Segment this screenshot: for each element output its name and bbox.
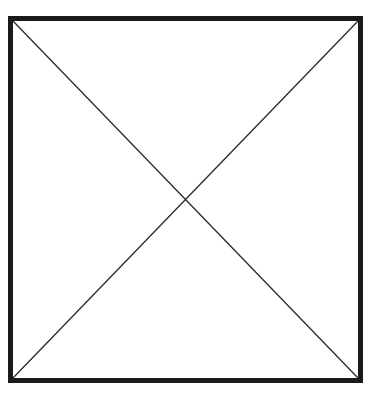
image-placeholder: Image placeholder xyxy=(8,16,363,383)
placeholder-x-icon xyxy=(8,16,363,383)
canvas: Image placeholder xyxy=(0,0,370,401)
